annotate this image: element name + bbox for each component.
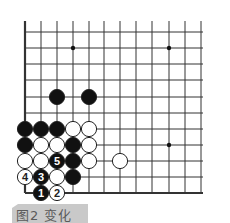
black-stone bbox=[33, 121, 48, 136]
white-stone: 4 bbox=[17, 169, 32, 184]
star-point-icon bbox=[167, 143, 171, 147]
white-stone bbox=[33, 153, 48, 168]
move-number: 5 bbox=[54, 155, 60, 167]
white-stone: 2 bbox=[49, 185, 64, 200]
black-stone bbox=[17, 121, 32, 136]
black-stone bbox=[65, 153, 80, 168]
black-stone bbox=[49, 89, 64, 104]
black-stone bbox=[65, 169, 80, 184]
white-stone bbox=[17, 153, 32, 168]
white-stone bbox=[81, 121, 96, 136]
white-stone bbox=[49, 169, 64, 184]
figure-caption: 图2 变化 bbox=[16, 205, 72, 223]
black-stone: 5 bbox=[49, 153, 64, 168]
move-number: 3 bbox=[38, 171, 44, 183]
black-stone bbox=[17, 137, 32, 152]
move-number: 4 bbox=[22, 171, 29, 183]
white-stone bbox=[49, 137, 64, 152]
white-stone bbox=[65, 121, 80, 136]
board-grid bbox=[25, 21, 203, 193]
go-board: 54312 bbox=[0, 0, 230, 223]
black-stone bbox=[49, 121, 64, 136]
black-stone: 3 bbox=[33, 169, 48, 184]
white-stone bbox=[81, 137, 96, 152]
white-stone bbox=[33, 137, 48, 152]
black-stone bbox=[65, 137, 80, 152]
white-stone bbox=[112, 153, 127, 168]
move-number: 2 bbox=[54, 187, 60, 199]
star-point-icon bbox=[71, 46, 75, 50]
white-stone bbox=[81, 153, 96, 168]
star-point-icon bbox=[167, 46, 171, 50]
black-stone: 1 bbox=[33, 185, 48, 200]
move-number: 1 bbox=[38, 187, 44, 199]
black-stone bbox=[81, 89, 96, 104]
